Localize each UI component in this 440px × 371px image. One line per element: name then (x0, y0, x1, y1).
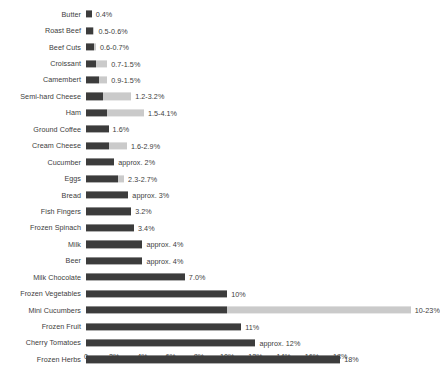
chart-row: Cream Cheese1.6-2.9% (0, 138, 392, 154)
value-label: 3.4% (138, 223, 155, 232)
bar-zone: approx. 12% (86, 335, 392, 351)
bar-segment-range (99, 76, 107, 83)
x-axis-tick-label: 6% (165, 352, 176, 361)
bar (86, 290, 227, 297)
bar-zone: approx. 3% (86, 187, 392, 203)
bar-zone: 0.4% (86, 6, 392, 22)
bar-segment-low (86, 44, 94, 51)
value-label: 1.5-4.1% (148, 108, 177, 117)
bar-segment-range (118, 175, 124, 182)
bar-zone: approx. 2% (86, 154, 392, 170)
bar-segment-low (86, 126, 109, 133)
bar-zone: 0.5-0.6% (86, 22, 392, 38)
value-label: 3.2% (135, 207, 152, 216)
chart-row: Ground Coffee1.6% (0, 121, 392, 137)
bar-zone: 2.3-2.7% (86, 170, 392, 186)
bar-zone: 10% (86, 285, 392, 301)
x-axis-tick-label: 0 (84, 352, 88, 361)
bar (86, 224, 134, 231)
x-axis-tick-label: 8% (194, 352, 205, 361)
category-label: Croissant (0, 59, 81, 68)
bar-zone: 3.2% (86, 203, 392, 219)
x-axis: 02%4%6%8%10%12%14%16%18% (0, 352, 392, 366)
bar-zone: approx. 4% (86, 236, 392, 252)
chart-plot-area: Butter0.4%Roast Beef0.5-0.6%Beef Cuts0.6… (0, 6, 392, 368)
value-label: 0.9-1.5% (111, 75, 140, 84)
bar-zone: 1.5-4.1% (86, 105, 392, 121)
bar-segment-low (86, 224, 134, 231)
x-axis-tick-label: 4% (137, 352, 148, 361)
x-axis-tick-label: 16% (305, 352, 320, 361)
value-label: 0.5-0.6% (98, 26, 127, 35)
bar-zone: 7.0% (86, 269, 392, 285)
value-label: 0.7-1.5% (111, 59, 140, 68)
bar-segment-low (86, 93, 103, 100)
x-axis-tick-label: 12% (248, 352, 263, 361)
chart-row: Frozen Vegetables10% (0, 285, 392, 301)
value-label: 1.6-2.9% (131, 141, 160, 150)
bar (86, 191, 128, 198)
category-label: Ham (0, 108, 81, 117)
bar (86, 27, 94, 34)
chart-row: Croissant0.7-1.5% (0, 55, 392, 71)
bar-segment-low (86, 11, 92, 18)
chart-row: Breadapprox. 3% (0, 187, 392, 203)
chart-row: Milkapprox. 4% (0, 236, 392, 252)
bar (86, 76, 107, 83)
bar-zone: 1.2-3.2% (86, 88, 392, 104)
chart-row: Milk Chocolate7.0% (0, 269, 392, 285)
chart-row: Fish Fingers3.2% (0, 203, 392, 219)
bar (86, 109, 144, 116)
category-label: Semi-hard Cheese (0, 92, 81, 101)
value-label: 0.6-0.7% (100, 43, 129, 52)
category-label: Milk Chocolate (0, 273, 81, 282)
value-label: approx. 12% (259, 338, 300, 347)
chart-row: Cucumberapprox. 2% (0, 154, 392, 170)
bar (86, 44, 96, 51)
bar-segment-range (227, 307, 411, 314)
category-label: Bread (0, 191, 81, 200)
bar-zone: 11% (86, 318, 392, 334)
bar (86, 241, 142, 248)
bar-segment-low (86, 208, 131, 215)
bar-segment-low (86, 290, 227, 297)
value-label: 10% (231, 289, 246, 298)
category-label: Ground Coffee (0, 125, 81, 134)
category-label: Eggs (0, 174, 81, 183)
bar-segment-range (96, 60, 107, 67)
bar-segment-low (86, 76, 99, 83)
bar (86, 339, 255, 346)
bar-zone: 1.6-2.9% (86, 138, 392, 154)
bar-segment-low (86, 142, 109, 149)
chart-row: Frozen Fruit11% (0, 318, 392, 334)
bar-zone: 0.7-1.5% (86, 55, 392, 71)
category-label: Cucumber (0, 158, 81, 167)
bar (86, 307, 411, 314)
bar-segment-low (86, 339, 255, 346)
bar-zone: approx. 4% (86, 253, 392, 269)
category-label: Milk (0, 240, 81, 249)
bar (86, 93, 131, 100)
category-label: Frozen Vegetables (0, 289, 81, 298)
category-label: Frozen Spinach (0, 223, 81, 232)
bar (86, 274, 185, 281)
bar-segment-low (86, 241, 142, 248)
bar-zone: 1.6% (86, 121, 392, 137)
bar-segment-low (86, 274, 185, 281)
value-label: 11% (245, 322, 259, 331)
category-label: Roast Beef (0, 26, 81, 35)
bar (86, 126, 109, 133)
category-label: Beer (0, 256, 81, 265)
value-label: 2.3-2.7% (128, 174, 157, 183)
bar-segment-range (94, 44, 95, 51)
category-label: Cherry Tomatoes (0, 338, 81, 347)
bar-segment-low (86, 307, 227, 314)
chart-row: Beerapprox. 4% (0, 253, 392, 269)
chart-row: Eggs2.3-2.7% (0, 170, 392, 186)
bar-segment-range (109, 142, 127, 149)
chart-row: Frozen Spinach3.4% (0, 220, 392, 236)
chart-row: Mini Cucumbers10-23% (0, 302, 392, 318)
bar (86, 60, 107, 67)
bar-segment-low (86, 323, 241, 330)
